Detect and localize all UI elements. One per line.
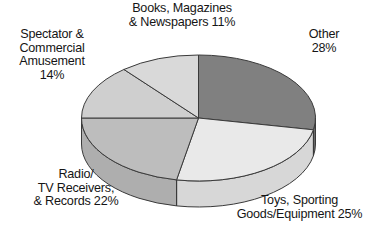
slice-label-radio-tv-receivers-records: Radio/ TV Receivers, & Records 22% [4,168,148,209]
pie-slices-top [82,55,316,181]
pie-slice-top-0 [199,55,316,130]
slice-label-other: Other 28% [276,28,372,55]
slice-label-spectator-commercial-amusement: Spectator & Commercial Amusement 14% [0,28,104,82]
slice-label-books-magazines-newspapers: Books, Magazines & Newspapers 11% [96,2,268,29]
slice-label-toys-sporting-goods-equipment: Toys, Sporting Goods/Equipment 25% [218,194,381,221]
pie-chart-figure: Books, Magazines & Newspapers 11% Other … [0,0,381,228]
